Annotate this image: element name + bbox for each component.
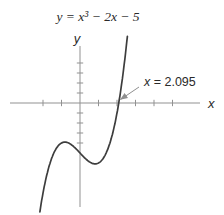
- annotation-arrow: [121, 87, 140, 100]
- graph-title: y = x³ − 2x − 5: [54, 9, 139, 24]
- root-annotation-value: = 2.095: [150, 75, 196, 89]
- x-axis-label: x: [207, 96, 215, 111]
- y-axis-label: y: [73, 31, 82, 46]
- function-curve: [40, 36, 128, 211]
- figure: y = x³ − 2x − 5 y x x = 2.095: [0, 0, 224, 215]
- root-annotation: x = 2.095: [143, 75, 196, 89]
- graph-canvas: y = x³ − 2x − 5 y x x = 2.095: [0, 0, 224, 215]
